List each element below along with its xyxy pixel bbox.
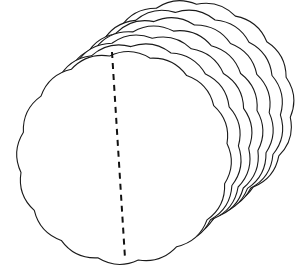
stacked-scalloped-discs-diagram xyxy=(0,0,299,276)
disc-stack xyxy=(17,1,294,265)
